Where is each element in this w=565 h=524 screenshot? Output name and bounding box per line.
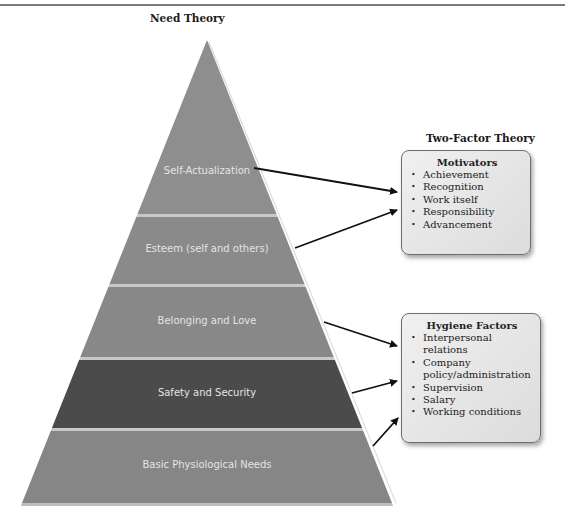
list-item: •Advancement <box>410 219 524 231</box>
bullet-icon: • <box>411 394 416 406</box>
list-item: •Supervision <box>410 382 534 394</box>
motivators-box: Motivators •Achievement •Recognition •Wo… <box>401 150 531 255</box>
list-item: •Interpersonal relations <box>410 332 534 357</box>
bullet-icon: • <box>411 181 416 193</box>
layer-label-safety: Safety and Security <box>158 387 256 398</box>
arrow-safety-to-hygiene <box>352 381 397 393</box>
list-item: •Salary <box>410 394 534 406</box>
arrow-esteem-to-motivators <box>295 210 397 248</box>
list-item: •Achievement <box>410 169 524 181</box>
pyramid-layer-self-actualization <box>138 40 277 214</box>
arrow-physiological-to-hygiene <box>373 418 398 446</box>
hygiene-factors-title: Hygiene Factors <box>410 320 534 331</box>
bullet-icon: • <box>411 219 416 231</box>
list-item: •Work itself <box>410 194 524 206</box>
layer-label-esteem: Esteem (self and others) <box>145 243 268 254</box>
bullet-icon: • <box>411 194 416 206</box>
layer-label-physiological: Basic Physiological Needs <box>143 459 272 470</box>
list-item: •Company policy/administration <box>410 357 534 382</box>
motivators-title: Motivators <box>410 157 524 168</box>
arrow-belonging-to-hygiene <box>324 322 397 346</box>
pyramid-diagram <box>0 0 565 524</box>
list-item: •Working conditions <box>410 406 534 418</box>
arrow-self-actualization-to-motivators <box>254 168 397 192</box>
bullet-icon: • <box>411 382 416 394</box>
bullet-icon: • <box>411 169 416 181</box>
hygiene-factors-box: Hygiene Factors •Interpersonal relations… <box>401 313 541 443</box>
bullet-icon: • <box>411 357 416 369</box>
bullet-icon: • <box>411 332 416 344</box>
list-item: •Responsibility <box>410 206 524 218</box>
layer-label-belonging: Belonging and Love <box>158 315 257 326</box>
bullet-icon: • <box>411 406 416 418</box>
hygiene-factors-list: •Interpersonal relations •Company policy… <box>410 332 534 419</box>
bullet-icon: • <box>411 206 416 218</box>
motivators-list: •Achievement •Recognition •Work itself •… <box>410 169 524 231</box>
list-item: •Recognition <box>410 181 524 193</box>
layer-label-self-actualization: Self-Actualization <box>164 165 250 176</box>
